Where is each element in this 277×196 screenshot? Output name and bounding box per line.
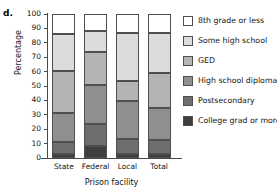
chart-figure: d. Percentage 0102030405060708090100 Sta… bbox=[0, 0, 277, 196]
legend-swatch-icon bbox=[183, 116, 193, 126]
bar-segment[interactable] bbox=[116, 139, 139, 154]
bar-segment[interactable] bbox=[116, 154, 139, 158]
y-axis-tick-mark bbox=[44, 86, 48, 87]
x-axis-label: Prison facility bbox=[48, 178, 175, 187]
bar-segment[interactable] bbox=[148, 154, 171, 158]
legend-swatch-icon bbox=[183, 36, 193, 46]
y-axis-tick-mark bbox=[44, 129, 48, 130]
chart-legend: 8th grade or lessSome high schoolGEDHigh… bbox=[183, 11, 277, 131]
bar-total[interactable] bbox=[148, 14, 171, 158]
legend-item-label: Postsecondary bbox=[198, 97, 255, 105]
x-axis-baseline bbox=[41, 158, 182, 159]
y-axis-tick-label: 10 bbox=[31, 139, 41, 148]
y-axis-tick-label: 0 bbox=[36, 153, 41, 162]
bar-segment[interactable] bbox=[52, 142, 75, 154]
bar-segment[interactable] bbox=[84, 85, 107, 125]
y-axis-tick-mark bbox=[44, 57, 48, 58]
y-axis-tick-label: 100 bbox=[27, 9, 41, 18]
x-axis-tick-label-total: Total bbox=[136, 162, 182, 171]
bar-segment[interactable] bbox=[52, 71, 75, 113]
bar-segment[interactable] bbox=[116, 81, 139, 101]
legend-item-label: College grad or more bbox=[198, 117, 277, 125]
bar-segment[interactable] bbox=[52, 154, 75, 158]
y-axis-tick-mark bbox=[44, 100, 48, 101]
bar-segment[interactable] bbox=[84, 124, 107, 146]
panel-label: d. bbox=[3, 8, 13, 18]
bar-segment[interactable] bbox=[84, 14, 107, 31]
legend-swatch-icon bbox=[183, 16, 193, 26]
legend-item-label: 8th grade or less bbox=[198, 17, 264, 25]
y-axis-tick-label: 70 bbox=[31, 52, 41, 61]
legend-item-label: High school diploma bbox=[198, 77, 277, 85]
bar-segment[interactable] bbox=[52, 113, 75, 143]
bar-local[interactable] bbox=[116, 14, 139, 158]
bar-segment[interactable] bbox=[148, 33, 171, 73]
legend-item[interactable]: GED bbox=[183, 51, 277, 71]
bar-segment[interactable] bbox=[52, 34, 75, 71]
bar-segment[interactable] bbox=[148, 140, 171, 154]
bar-segment[interactable] bbox=[52, 14, 75, 34]
bar-segment[interactable] bbox=[116, 14, 139, 33]
legend-item[interactable]: Some high school bbox=[183, 31, 277, 51]
y-axis-tick-mark bbox=[44, 114, 48, 115]
legend-item[interactable]: Postsecondary bbox=[183, 91, 277, 111]
legend-item[interactable]: High school diploma bbox=[183, 71, 277, 91]
legend-item-label: Some high school bbox=[198, 37, 267, 45]
bar-segment[interactable] bbox=[84, 31, 107, 52]
y-axis-tick-label: 20 bbox=[31, 124, 41, 133]
bar-segment[interactable] bbox=[116, 101, 139, 138]
legend-swatch-icon bbox=[183, 76, 193, 86]
legend-swatch-icon bbox=[183, 96, 193, 106]
legend-item[interactable]: 8th grade or less bbox=[183, 11, 277, 31]
y-axis-tick-label: 30 bbox=[31, 110, 41, 119]
y-axis-tick-label: 60 bbox=[31, 67, 41, 76]
legend-swatch-icon bbox=[183, 56, 193, 66]
bar-segment[interactable] bbox=[148, 108, 171, 140]
plot-area: 0102030405060708090100 bbox=[48, 14, 175, 158]
y-axis-tick-mark bbox=[44, 143, 48, 144]
bar-state[interactable] bbox=[52, 14, 75, 158]
y-axis-tick-mark bbox=[44, 14, 48, 15]
legend-item-label: GED bbox=[198, 57, 215, 65]
bar-federal[interactable] bbox=[84, 14, 107, 158]
bar-segment[interactable] bbox=[116, 33, 139, 81]
y-axis-tick-label: 90 bbox=[31, 23, 41, 32]
bar-segment[interactable] bbox=[84, 146, 107, 158]
y-axis-tick-label: 80 bbox=[31, 38, 41, 47]
y-axis-tick-mark bbox=[44, 42, 48, 43]
bar-segment[interactable] bbox=[84, 52, 107, 84]
bar-segment[interactable] bbox=[148, 14, 171, 33]
y-axis-tick-mark bbox=[44, 28, 48, 29]
y-axis-tick-label: 40 bbox=[31, 95, 41, 104]
y-axis-tick-mark bbox=[44, 71, 48, 72]
y-axis-tick-label: 50 bbox=[31, 81, 41, 90]
legend-item[interactable]: College grad or more bbox=[183, 111, 277, 131]
bar-segment[interactable] bbox=[148, 73, 171, 108]
y-axis-tick-mark bbox=[44, 158, 48, 159]
y-axis-label: Percentage bbox=[14, 8, 23, 98]
